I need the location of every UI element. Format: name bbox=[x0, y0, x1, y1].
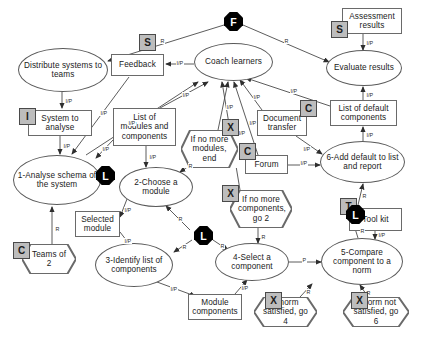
edge-label: R bbox=[284, 38, 289, 44]
node-choose[interactable]: 2-Choose a module bbox=[119, 167, 193, 207]
edge-label: I/P bbox=[378, 232, 386, 238]
edge-label: I/P bbox=[65, 98, 73, 104]
node-distribute[interactable]: Distribute systems to teams bbox=[18, 48, 108, 92]
node-label: If no more components, go 2 bbox=[230, 195, 292, 223]
octagon-f-coach[interactable]: F bbox=[224, 12, 243, 31]
edge-label: R bbox=[306, 289, 311, 295]
node-analyse[interactable]: 1-Analyse schema of the system bbox=[13, 155, 101, 205]
edge-label: R bbox=[55, 226, 60, 232]
badge-x-no-modules[interactable]: X bbox=[222, 119, 239, 136]
edge-label: R bbox=[360, 228, 365, 234]
edge-label: I/P bbox=[300, 160, 308, 166]
edge-label: I/P bbox=[366, 40, 374, 46]
node-label: 4-Select a component bbox=[216, 253, 288, 271]
edge-label: R bbox=[160, 38, 165, 44]
node-label: 6-Add default to list and report bbox=[321, 153, 404, 171]
edge-label: I/P bbox=[128, 120, 136, 126]
badge-c-teams[interactable]: C bbox=[13, 242, 30, 259]
node-label: 1-Analyse schema of the system bbox=[14, 171, 100, 189]
edge-label: I/P bbox=[303, 146, 311, 152]
node-selected[interactable]: Selected module bbox=[75, 211, 120, 237]
node-label: Selected module bbox=[76, 215, 119, 233]
edge-label: I/P bbox=[124, 207, 132, 213]
edge-label: R bbox=[178, 216, 183, 222]
edge-label: R bbox=[261, 234, 266, 240]
node-norm_sat[interactable]: If norm satisfied, go 4 bbox=[254, 297, 317, 327]
node-label: Evaluate results bbox=[331, 63, 397, 72]
edge-label: R bbox=[220, 243, 225, 249]
node-label: Forum bbox=[251, 160, 281, 169]
octagon-l-compare[interactable]: L bbox=[346, 205, 365, 224]
edge-label: I/P bbox=[100, 110, 108, 116]
node-label: System to analyse bbox=[29, 114, 91, 132]
edge-label: I/P bbox=[149, 154, 157, 160]
node-label: Document transfer bbox=[258, 114, 306, 132]
octagon-l-identify[interactable]: L bbox=[194, 226, 213, 245]
edge-label: I/P bbox=[170, 286, 178, 292]
edge-label: R bbox=[182, 244, 187, 250]
node-label: Module components bbox=[189, 298, 241, 316]
node-evaluate[interactable]: Evaluate results bbox=[326, 50, 402, 86]
node-label: Coach learners bbox=[202, 57, 265, 66]
node-label: List of modules and components bbox=[114, 113, 175, 141]
node-add_default[interactable]: 6-Add default to list and report bbox=[320, 141, 405, 183]
node-list_modules[interactable]: List of modules and components bbox=[113, 108, 176, 146]
edge-label: I/P bbox=[176, 60, 184, 66]
node-label: Teams of 2 bbox=[22, 250, 76, 268]
badge-x-norm-not-sat[interactable]: X bbox=[351, 292, 368, 309]
node-label: Feedback bbox=[116, 60, 159, 69]
badge-s-feedback[interactable]: S bbox=[139, 34, 156, 51]
node-label: Distribute systems to teams bbox=[19, 61, 107, 79]
edge-label: I/P bbox=[366, 132, 374, 138]
node-system[interactable]: System to analyse bbox=[28, 110, 92, 136]
edge-list_default-to-coach bbox=[246, 78, 330, 106]
edge-label: I/P bbox=[241, 285, 249, 291]
node-select_comp[interactable]: 4-Select a component bbox=[215, 243, 289, 281]
badge-c-forum[interactable]: C bbox=[239, 143, 256, 160]
node-compare[interactable]: 5-Compare component to a norm bbox=[321, 238, 403, 285]
node-feedback[interactable]: Feedback bbox=[111, 54, 164, 76]
edge-label: P bbox=[302, 257, 307, 263]
node-label: 3-Identify list of components bbox=[96, 256, 172, 274]
edge-label: I/P bbox=[63, 143, 71, 149]
node-no_components[interactable]: If no more components, go 2 bbox=[230, 190, 292, 228]
badge-x-no-components[interactable]: X bbox=[222, 185, 239, 202]
node-label: 2-Choose a module bbox=[120, 178, 192, 196]
node-assessment[interactable]: Assessment results bbox=[342, 8, 402, 34]
edge-label: I/P bbox=[226, 104, 234, 110]
badge-i-system[interactable]: I bbox=[19, 108, 36, 125]
node-module_comp[interactable]: Module components bbox=[188, 294, 242, 320]
edge-label: I/P bbox=[253, 94, 261, 100]
badge-c-document[interactable]: C bbox=[300, 100, 317, 117]
edge-label: R bbox=[362, 193, 367, 199]
edge-label: I/P bbox=[102, 146, 110, 152]
octagon-l-analyse[interactable]: L bbox=[96, 166, 115, 185]
diagram-canvas: RRI/PI/PI/PRI/PI/PI/PI/PI/PRI/PI/PI/PI/P… bbox=[0, 0, 440, 337]
edge-label: I/P bbox=[182, 92, 190, 98]
node-teams[interactable]: Teams of 2 bbox=[22, 244, 76, 274]
node-label: If norm satisfied, go 4 bbox=[254, 298, 317, 326]
node-label: If no more modules, end bbox=[181, 135, 238, 163]
node-list_default[interactable]: List of default components bbox=[330, 100, 397, 126]
node-label: 5-Compare component to a norm bbox=[322, 248, 402, 276]
edge-label: I/P bbox=[124, 238, 132, 244]
node-coach[interactable]: Coach learners bbox=[194, 43, 273, 81]
badge-s-assessment[interactable]: S bbox=[331, 21, 348, 38]
edge-label: I/P bbox=[238, 130, 246, 136]
edge-label: R bbox=[188, 163, 193, 169]
node-label: Assessment results bbox=[343, 12, 401, 30]
node-identify[interactable]: 3-Identify list of components bbox=[95, 243, 173, 287]
badge-x-norm-sat[interactable]: X bbox=[265, 292, 282, 309]
node-label: List of default components bbox=[331, 104, 396, 122]
edge-label: I/P bbox=[290, 88, 298, 94]
edge-label: I/P bbox=[366, 92, 374, 98]
edge-label: I/P bbox=[249, 120, 257, 126]
